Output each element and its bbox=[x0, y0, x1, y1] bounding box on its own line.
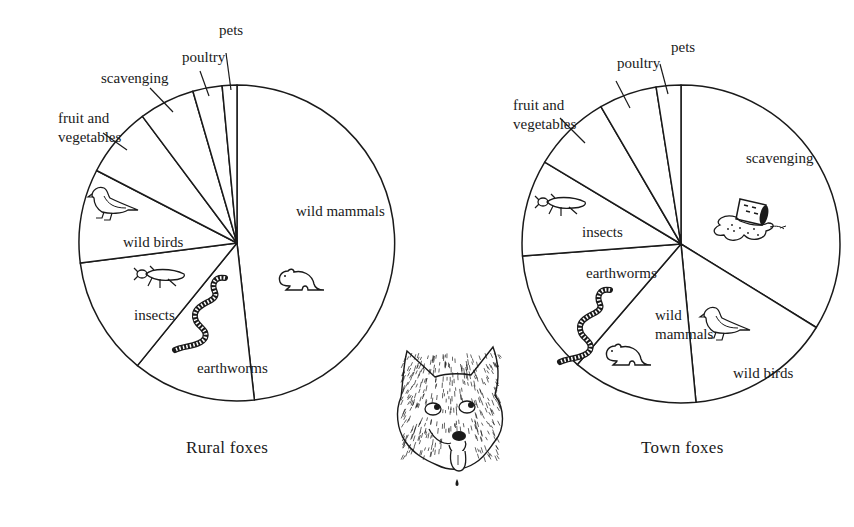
pie-chart-town-foxes: scavengingwild birdswildmammalsearthworm… bbox=[513, 39, 840, 403]
slice-label-pets: pets bbox=[219, 22, 243, 38]
slice-label-poultry: poultry bbox=[617, 55, 661, 71]
figure: wild mammalsearthwormsinsectswild birdsf… bbox=[0, 0, 854, 527]
slice-label-fruit-and-vegetables: fruit andvegetables bbox=[513, 97, 576, 132]
slice-label-scavenging: scavenging bbox=[101, 70, 169, 86]
slice-label-wild-birds: wild birds bbox=[123, 234, 184, 250]
slice-label-earthworms: earthworms bbox=[586, 265, 657, 281]
slice-label-wild-birds: wild birds bbox=[733, 365, 794, 381]
fox-head-icon bbox=[398, 347, 503, 486]
slice-label-earthworms: earthworms bbox=[197, 360, 268, 376]
pie-chart-rural-foxes: wild mammalsearthwormsinsectswild birdsf… bbox=[58, 22, 395, 401]
slice-label-insects: insects bbox=[134, 307, 175, 323]
chart-caption-rural: Rural foxes bbox=[186, 438, 268, 458]
slice-label-pets: pets bbox=[671, 39, 695, 55]
slice-label-insects: insects bbox=[582, 224, 623, 240]
slice-label-scavenging: scavenging bbox=[746, 150, 814, 166]
chart-caption-town: Town foxes bbox=[641, 438, 724, 458]
slice-label-wild-mammals: wild mammals bbox=[296, 203, 385, 219]
slice-label-fruit-and-vegetables: fruit andvegetables bbox=[58, 110, 121, 145]
slice-label-poultry: poultry bbox=[182, 49, 226, 65]
leader-line bbox=[226, 53, 231, 90]
diet-pie-charts: wild mammalsearthwormsinsectswild birdsf… bbox=[0, 0, 854, 527]
pie-slice-wild-mammals bbox=[237, 85, 395, 400]
